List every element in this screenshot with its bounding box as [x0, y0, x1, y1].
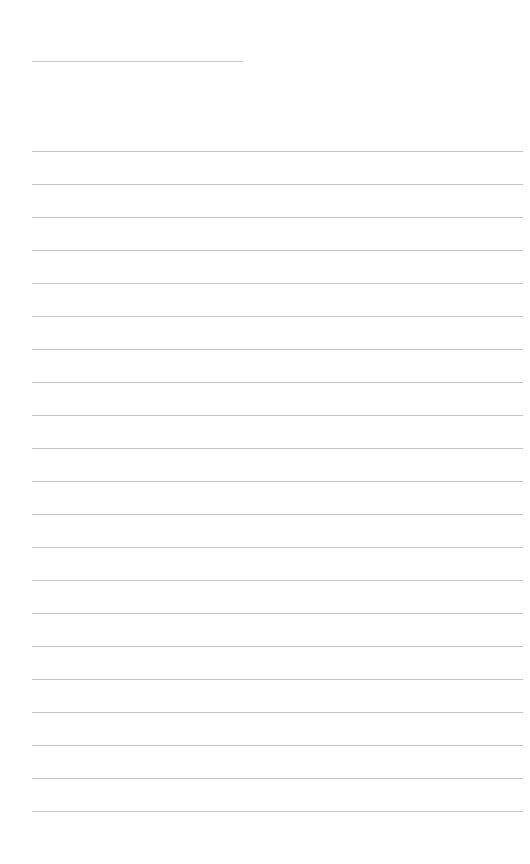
lined-paper-page [0, 0, 530, 864]
ruled-line [32, 580, 523, 581]
ruled-line [32, 613, 523, 614]
ruled-line [32, 184, 523, 185]
ruled-line [32, 448, 523, 449]
ruled-line [32, 547, 523, 548]
ruled-line [32, 217, 523, 218]
title-underline [32, 61, 243, 62]
ruled-line [32, 679, 523, 680]
ruled-line [32, 415, 523, 416]
ruled-line [32, 151, 523, 152]
ruled-line [32, 250, 523, 251]
ruled-line [32, 382, 523, 383]
ruled-line [32, 745, 523, 746]
ruled-line [32, 283, 523, 284]
ruled-line [32, 712, 523, 713]
ruled-line [32, 481, 523, 482]
ruled-line [32, 349, 523, 350]
ruled-line [32, 316, 523, 317]
ruled-line [32, 514, 523, 515]
ruled-line [32, 811, 523, 812]
ruled-line [32, 778, 523, 779]
ruled-line [32, 646, 523, 647]
